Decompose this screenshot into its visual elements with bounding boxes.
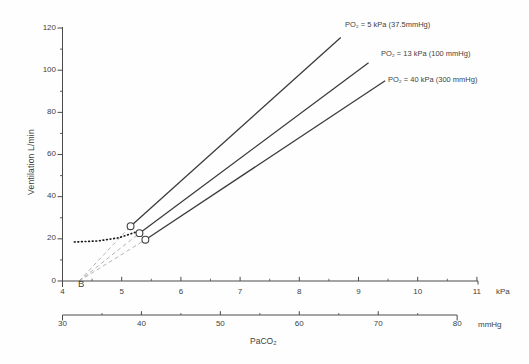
y-tick-label: 60 [30,150,56,158]
co2-response-line [131,38,341,227]
intercept-b-label: B [78,279,84,289]
y-tick-label: 80 [30,108,56,116]
series-label-po2-13kpa: PO₂ = 13 kPa (100 mmHg) [381,50,470,58]
kpa-tick-label: 11 [467,288,487,296]
kpa-tick-label: 5 [112,288,132,296]
series-label-po2-40kpa: PO₂ = 40 kPa (300 mmHg) [388,76,477,84]
kpa-unit-label: kPa [496,288,510,296]
mmhg-tick-label: 50 [208,320,232,328]
y-tick-label: 20 [30,234,56,242]
threshold-marker [136,230,143,237]
kpa-tick-label: 8 [289,288,309,296]
y-tick-label: 0 [30,277,56,285]
x-axis-title: PaCO₂ [250,337,276,346]
threshold-marker [127,223,134,230]
y-tick-label: 120 [30,24,56,32]
resting-ventilation-dotted-line [74,232,137,242]
extrapolation-dashed-line [79,240,145,281]
y-tick-label: 40 [30,192,56,200]
mmhg-tick-label: 60 [287,320,311,328]
kpa-tick-label: 4 [53,288,73,296]
kpa-tick-label: 7 [230,288,250,296]
mmhg-tick-label: 70 [366,320,390,328]
extrapolation-dashed-line [79,233,139,281]
y-tick-label: 100 [30,66,56,74]
co2-response-line [139,63,368,233]
series-label-po2-5kpa: PO₂ = 5 kPa (37.5mmHg) [345,21,430,29]
mmhg-tick-label: 40 [129,320,153,328]
kpa-tick-label: 6 [171,288,191,296]
mmhg-tick-label: 80 [445,320,469,328]
mmhg-unit-label: mmHg [478,321,502,329]
y-axis-title: Ventilation L/min [27,129,36,195]
mmhg-tick-label: 30 [51,320,75,328]
kpa-tick-label: 9 [349,288,369,296]
kpa-tick-label: 10 [408,288,428,296]
co2-ventilatory-response-figure: Ventilation L/min PaCO₂ kPa mmHg B PO₂ =… [0,0,529,364]
threshold-marker [142,236,149,243]
